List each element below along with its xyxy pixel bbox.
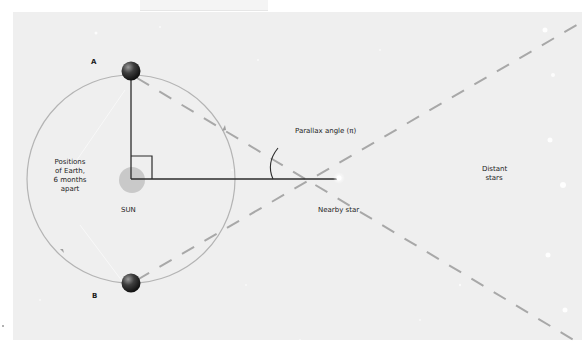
sightline-from-b: [137, 22, 582, 280]
label-nearby-star: Nearby star: [318, 206, 359, 215]
sightline-from-a: [137, 78, 582, 345]
label-line: of Earth,: [52, 167, 88, 176]
label-parallax-angle: Parallax angle (π): [295, 127, 356, 136]
label-line: Distant: [482, 165, 506, 174]
earth-a: [122, 62, 141, 81]
label-position-b: B: [92, 292, 97, 301]
label-position-a: A: [91, 58, 96, 67]
label-line: 6 months: [52, 176, 88, 185]
label-earth-positions: Positions of Earth, 6 months apart: [52, 158, 88, 194]
orbit-arrow-upper: [222, 125, 226, 131]
earth-b: [122, 274, 141, 293]
label-distant-stars: Distant stars: [482, 165, 506, 183]
parallax-angle-arc: [270, 148, 278, 179]
label-line: apart: [52, 185, 88, 194]
nearby-star: [337, 176, 342, 181]
label-line: stars: [482, 174, 506, 183]
orbit-arrow-lower: [60, 249, 64, 253]
label-line: Positions: [52, 158, 88, 167]
faint-line-lower: [80, 225, 125, 285]
sun: [119, 167, 145, 193]
label-sun: SUN: [121, 206, 136, 215]
